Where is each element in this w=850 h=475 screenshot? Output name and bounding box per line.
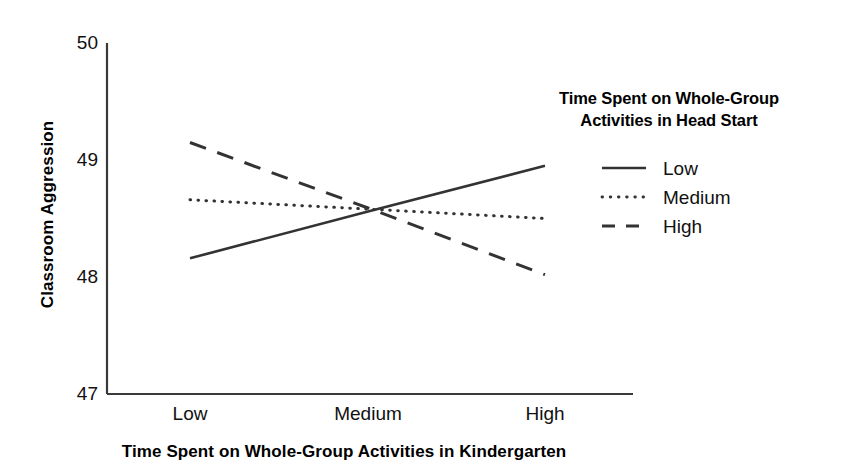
legend-item-low: Low	[600, 154, 834, 183]
y-axis-title: Classroom Aggression	[39, 100, 56, 330]
x-tick-label-high: High	[485, 404, 605, 423]
legend-title-line-2: Activities in Head Start	[524, 110, 814, 132]
chart-figure: 50 49 48 47 Low Medium High Classroom Ag…	[0, 0, 850, 475]
x-tick-label-medium: Medium	[308, 404, 428, 423]
legend-item-medium: Medium	[600, 183, 834, 212]
x-tick-label-low: Low	[130, 404, 250, 423]
y-tick-label-47: 47	[54, 384, 98, 403]
legend-label-high: High	[663, 217, 702, 236]
legend-label-low: Low	[663, 159, 698, 178]
chart-legend: Time Spent on Whole-Group Activities in …	[524, 88, 834, 241]
legend-dashed-line-icon	[600, 220, 654, 232]
legend-item-high: High	[600, 212, 834, 241]
legend-title: Time Spent on Whole-Group Activities in …	[524, 88, 814, 132]
y-tick-label-48: 48	[54, 267, 98, 286]
series-line-high	[190, 143, 545, 275]
series-line-low	[190, 166, 545, 258]
legend-label-medium: Medium	[663, 188, 731, 207]
legend-title-line-1: Time Spent on Whole-Group	[524, 88, 814, 110]
y-tick-label-50: 50	[54, 33, 98, 52]
y-tick-label-49: 49	[54, 150, 98, 169]
legend-solid-line-icon	[600, 162, 654, 174]
legend-dotted-line-icon	[600, 191, 654, 203]
x-axis-title: Time Spent on Whole-Group Activities in …	[48, 443, 640, 460]
legend-entries: Low Medium High	[600, 154, 834, 241]
